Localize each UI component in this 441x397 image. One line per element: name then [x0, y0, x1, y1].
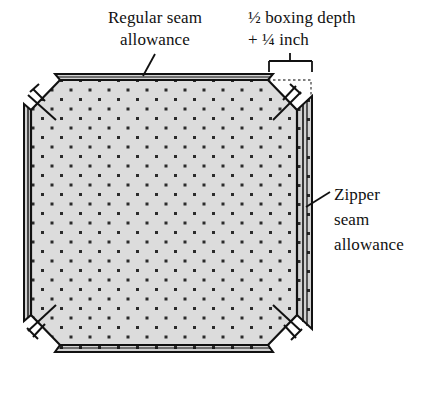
- cushion-panel: [31, 80, 297, 345]
- cushion-panel-outline: [31, 80, 297, 345]
- zipper-seam-label-line-1: Zipper: [334, 185, 380, 204]
- zipper-seam-allowance-strip: [296, 90, 313, 335]
- zipper-seam-label-line-2: seam: [334, 210, 369, 229]
- boxing-depth-label-line-2: + ¼ inch: [248, 30, 309, 49]
- zipper-seam-label-line-3: allowance: [334, 235, 404, 254]
- diagram-root: Regular seam allowance ½ boxing depth + …: [0, 0, 441, 397]
- cushion-cover-diagram: Regular seam allowance ½ boxing depth + …: [0, 0, 441, 397]
- regular-seam-label-line-2: allowance: [120, 30, 190, 49]
- boxing-depth-label-line-1: ½ boxing depth: [248, 8, 356, 27]
- regular-seam-label-line-1: Regular seam: [108, 8, 202, 27]
